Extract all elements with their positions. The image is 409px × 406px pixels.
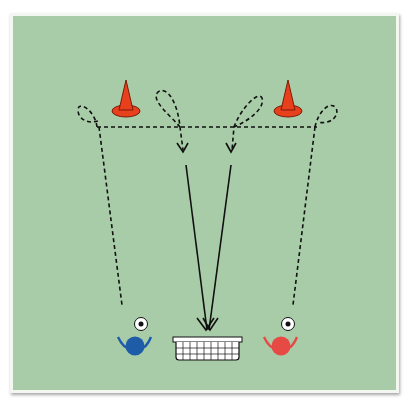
arrowhead-dashed-right	[226, 143, 236, 152]
player-red-icon	[264, 337, 297, 356]
drill-diagram	[0, 0, 409, 406]
loop-mid-right	[232, 96, 262, 150]
cone-left-icon	[112, 80, 140, 117]
ball-left-icon	[135, 318, 148, 331]
ball-right-icon	[282, 318, 295, 331]
loop-right-outer	[315, 105, 337, 127]
cone-right-icon	[274, 80, 302, 117]
arrowhead-shot	[197, 318, 218, 330]
shot-line-left	[186, 165, 207, 330]
player-blue-icon	[118, 337, 151, 356]
dribble-path-right	[293, 127, 315, 305]
dribble-path-left	[99, 127, 122, 305]
loop-mid-left	[156, 91, 183, 150]
loop-left-outer	[78, 106, 100, 127]
goal-icon	[173, 337, 242, 360]
shot-line-right	[209, 165, 231, 330]
